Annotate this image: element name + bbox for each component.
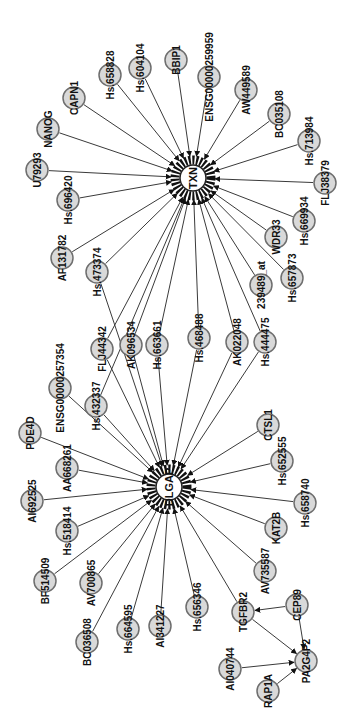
edge-Hs713984-to-TXN <box>214 145 298 172</box>
node-label: U79293 <box>32 152 43 187</box>
node-label: Hs.432337 <box>91 381 102 430</box>
node-Hs713984[interactable]: Hs.713984 <box>298 116 320 165</box>
edge-AK022048-to-TXN <box>199 199 234 330</box>
node-PDE4D[interactable]: PDE4D <box>19 416 41 449</box>
edge-Hs696420-to-TXN <box>80 182 172 198</box>
edge-FLJ44342-to-TXN <box>108 197 183 338</box>
node-CAPN1[interactable]: CAPN1 <box>63 81 85 115</box>
node-label: Hs.656346 <box>192 582 203 631</box>
node-KAT2B[interactable]: KAT2B <box>265 512 287 545</box>
node-label: BF514509 <box>40 557 51 604</box>
hub-label: TXN <box>187 167 199 189</box>
edge-Hs468488-to-DLGAP <box>173 350 196 466</box>
edge-ENSG00000257354-to-DLGAP <box>69 396 153 472</box>
node-label: PDE4D <box>25 416 36 449</box>
node-RAP1A[interactable]: RAP1A <box>257 674 279 708</box>
edge-AI040744-to-PA2G4P2 <box>242 662 294 667</box>
edge-AK022048-to-DLGAP <box>178 353 232 467</box>
node-AI040744[interactable]: AI040744 <box>219 647 241 691</box>
edge-FLJ38379-to-TXN <box>215 179 313 183</box>
edge-RAP1A-to-PA2G4P2 <box>277 668 296 683</box>
node-Hs663661[interactable]: Hs.663661 <box>146 320 168 369</box>
edge-Hs658828-to-TXN <box>118 84 180 161</box>
node-Hs468488[interactable]: Hs.468488 <box>188 313 210 362</box>
node-AI692525[interactable]: AI692525 <box>21 479 43 523</box>
node-AV735587[interactable]: AV735587 <box>254 547 276 594</box>
node-label: KAT2B <box>271 512 282 545</box>
node-label: AI341227 <box>155 604 166 648</box>
node-label: AW449589 <box>241 65 252 115</box>
edge-Hs432337-to-DLGAP <box>104 415 154 471</box>
edge-CEP89-to-TGFBR2 <box>255 607 285 611</box>
node-Hs696420[interactable]: Hs.696420 <box>57 175 79 224</box>
node-label: Hs.657873 <box>287 253 298 302</box>
node-ENSG00000259959[interactable]: ENSG00000259959 <box>198 32 220 122</box>
node-CEP89[interactable]: CEP89 <box>286 589 308 621</box>
node-BC036508[interactable]: BC036508 <box>76 618 98 666</box>
node-label: AV700865 <box>86 559 97 606</box>
edge-FLJ44342-to-DLGAP <box>107 360 159 467</box>
node-CTSL1[interactable]: CTSL1 <box>257 409 279 441</box>
nodes-layer: Hs.658828Hs.604104BBIP1ENSG00000259959AW… <box>19 32 336 708</box>
edge-Hs444475-to-TXN <box>202 198 260 331</box>
node-WDR33[interactable]: WDR33 <box>265 219 287 254</box>
node-NANOG[interactable]: NANOG <box>37 110 59 147</box>
node-label: Hs.604104 <box>135 43 146 92</box>
node-label: ENSG00000259959 <box>204 32 215 122</box>
node-label: AK022048 <box>232 318 243 366</box>
node-label: Hs.444475 <box>260 317 271 366</box>
node-AV700865[interactable]: AV700865 <box>80 559 102 606</box>
node-label: Hs.473374 <box>92 247 103 296</box>
edge-AI341227-to-DLGAP <box>161 509 168 614</box>
hub-node-TXN[interactable]: TXN <box>175 160 211 196</box>
node-label: Hs.658740 <box>300 478 311 527</box>
hub-node-DLGAP[interactable]: DLGAP <box>151 468 187 507</box>
node-label: PA2G4P2 <box>301 638 312 683</box>
node-TGFBR2[interactable]: TGFBR2 <box>232 592 254 632</box>
node-Hs473374[interactable]: Hs.473374 <box>86 247 108 296</box>
edge-239489_at-to-TXN <box>205 197 255 275</box>
node-Hs657873[interactable]: Hs.657873 <box>281 253 303 302</box>
edge-NANOG-to-TXN <box>59 133 172 171</box>
node-Hs652555[interactable]: Hs.652555 <box>271 436 293 485</box>
node-Hs658828[interactable]: Hs.658828 <box>99 50 121 99</box>
edge-AK096534-to-TXN <box>135 199 185 334</box>
node-BF514509[interactable]: BF514509 <box>34 557 56 604</box>
node-Hs518414[interactable]: Hs.518414 <box>56 506 78 555</box>
node-label: Hs.658828 <box>105 50 116 99</box>
node-label: Hs.518414 <box>62 506 73 555</box>
node-label: CTSL1 <box>263 409 274 441</box>
node-ENSG00000257354[interactable]: ENSG00000257354 <box>49 343 71 433</box>
node-label: 239489_at <box>256 260 267 308</box>
node-label: AK096534 <box>126 321 137 369</box>
node-label: ENSG00000257354 <box>55 343 66 433</box>
hub-label: DLGAP <box>163 468 175 507</box>
edge-KAT2B-to-DLGAP <box>190 495 265 524</box>
edge-Hs658740-to-DLGAP <box>191 490 293 502</box>
node-BC035108[interactable]: BC035108 <box>268 90 290 138</box>
node-Hs658740[interactable]: Hs.658740 <box>294 478 316 527</box>
edge-TGFBR2-to-DLGAP <box>180 506 237 602</box>
node-label: BC035108 <box>274 90 285 138</box>
node-Hs669934[interactable]: Hs.669934 <box>293 196 315 245</box>
node-label: AI040744 <box>225 647 236 691</box>
node-PA2G4P2[interactable]: PA2G4P2 <box>295 638 317 683</box>
node-BBIP1[interactable]: BBIP1 <box>165 45 187 75</box>
edge-Hs663661-to-DLGAP <box>158 357 167 465</box>
node-AK096534[interactable]: AK096534 <box>120 321 142 369</box>
node-Hs656346[interactable]: Hs.656346 <box>186 582 208 631</box>
edge-Hs604104-to-TXN <box>145 79 183 158</box>
node-label: RAP1A <box>263 674 274 708</box>
node-U79293[interactable]: U79293 <box>26 152 48 187</box>
node-FLJ38379[interactable]: FLJ38379 <box>314 160 336 206</box>
network-diagram: Hs.658828Hs.604104BBIP1ENSG00000259959AW… <box>0 0 343 727</box>
node-Hs664595[interactable]: Hs.664595 <box>117 604 139 653</box>
node-label: CAPN1 <box>69 81 80 115</box>
node-label: AV735587 <box>260 547 271 594</box>
node-AF131782[interactable]: AF131782 <box>51 234 73 281</box>
node-239489_at[interactable]: 239489_at <box>250 260 272 308</box>
node-label: FLJ44342 <box>97 326 108 372</box>
node-label: Hs.696420 <box>63 175 74 224</box>
node-AW449589[interactable]: AW449589 <box>235 65 257 115</box>
node-AI341227[interactable]: AI341227 <box>149 604 171 648</box>
